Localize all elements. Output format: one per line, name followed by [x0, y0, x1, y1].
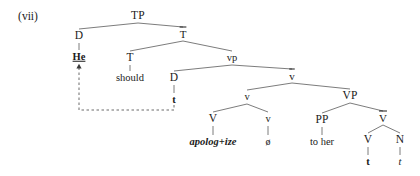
tree-node-pp: PP — [315, 114, 328, 126]
branch-vbar-to-v2 — [368, 125, 383, 133]
tree-node-vp: vp — [227, 53, 238, 64]
tree-node-t2: t — [366, 157, 370, 168]
tree-node-d1: D — [75, 30, 84, 42]
branch-tbar-to-vp — [183, 41, 232, 51]
tree-node-vbar: v — [289, 71, 295, 82]
tree-node-vp: VP — [342, 90, 357, 102]
branch-vp-to-pp — [322, 103, 350, 113]
branch-vp-to-vbar — [232, 65, 292, 69]
branch-vbar-to-v — [247, 83, 292, 90]
tree-node-tbar: T — [180, 29, 187, 40]
branch-vp-to-vbar — [350, 103, 383, 111]
syntax-tree-figure: (vii) TPDHeTTshouldvpDtvvVapolog+izevøVP… — [0, 0, 420, 176]
tree-node-vbar: V — [379, 113, 387, 124]
branch-vbar-to-vp — [292, 83, 350, 89]
tree-node-t: T — [126, 52, 133, 64]
movement-arrow-group — [76, 64, 174, 110]
tree-node-null: ø — [266, 137, 271, 147]
tree-node-d2: D — [170, 72, 179, 84]
tree-branch-lines — [0, 0, 420, 176]
branch-tbar-to-t — [130, 41, 183, 51]
branch-v-to-v2 — [247, 104, 268, 112]
tree-node-t3: t — [399, 157, 402, 168]
branch-v-to-v1 — [213, 104, 247, 112]
dp-movement-arrowhead — [76, 64, 81, 69]
tree-node-v: v — [244, 92, 249, 103]
tree-node-he: He — [73, 52, 86, 63]
tree-node-t1: t — [172, 95, 176, 106]
tree-node-n: N — [396, 134, 405, 146]
tree-node-v2: V — [364, 134, 373, 146]
tree-node-tp: TP — [131, 10, 145, 22]
tree-node-should: should — [116, 73, 144, 84]
tree-node-v1: V — [209, 113, 218, 125]
branch-tp-to-d1 — [79, 23, 138, 29]
branch-vbar-to-n — [383, 125, 400, 133]
tree-node-apolog: apolog+ize — [190, 137, 237, 148]
example-number-label: (vii) — [18, 11, 38, 23]
tree-node-v2: v — [265, 114, 270, 125]
branch-vp-to-d2 — [174, 65, 232, 71]
tree-node-tohher: to her — [310, 137, 334, 148]
branch-tp-to-tbar — [138, 23, 183, 27]
